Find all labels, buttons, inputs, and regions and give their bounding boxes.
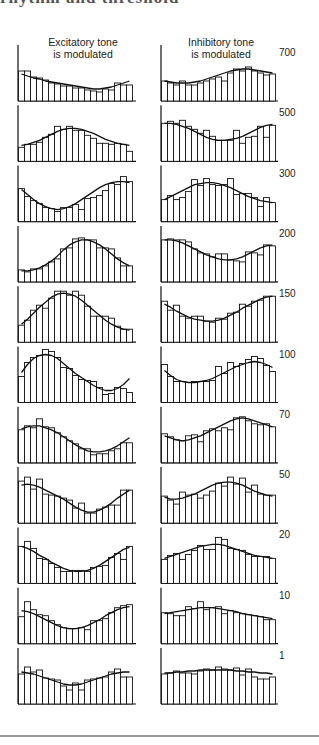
histogram-panel (161, 286, 278, 342)
histogram-panel (18, 467, 136, 523)
histogram-panel (18, 588, 136, 644)
histogram-panel (161, 166, 278, 222)
histogram-panel (161, 588, 278, 644)
histogram-panel (18, 407, 136, 463)
histogram-panel (161, 45, 278, 101)
histogram-panel (18, 166, 136, 222)
histogram-panel (18, 527, 136, 583)
histogram-panel (18, 648, 136, 704)
histogram-panel (161, 226, 278, 282)
histogram-panel (18, 226, 136, 282)
histogram-panel (161, 527, 278, 583)
histogram-panel (18, 105, 136, 161)
histogram-panel (18, 347, 136, 403)
histogram-panel (161, 105, 278, 161)
histogram-panel (161, 648, 278, 704)
bottom-divider (0, 735, 319, 737)
histogram-panel (18, 45, 136, 101)
histogram-panel (161, 407, 278, 463)
histogram-panels (0, 0, 319, 745)
histogram-panel (161, 467, 278, 523)
histogram-panel (18, 286, 136, 342)
histogram-panel (161, 347, 278, 403)
